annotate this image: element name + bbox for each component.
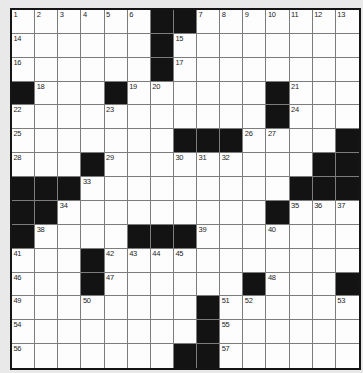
grid-cell[interactable] [105,201,128,225]
grid-cell[interactable] [58,34,81,58]
grid-cell[interactable]: 2 [35,10,58,34]
grid-cell[interactable] [151,344,174,368]
grid-cell[interactable] [313,249,336,273]
grid-cell[interactable]: 57 [220,344,243,368]
grid-cell[interactable]: 19 [128,82,151,106]
grid-cell[interactable] [105,320,128,344]
grid-cell[interactable] [151,201,174,225]
grid-cell[interactable] [243,177,266,201]
grid-cell[interactable] [243,225,266,249]
grid-cell[interactable]: 44 [151,249,174,273]
grid-cell[interactable] [313,58,336,82]
grid-cell[interactable] [35,344,58,368]
grid-cell[interactable]: 38 [35,225,58,249]
grid-cell[interactable] [35,105,58,129]
grid-cell[interactable]: 52 [243,296,266,320]
grid-cell[interactable]: 43 [128,249,151,273]
grid-cell[interactable]: 28 [12,153,35,177]
grid-cell[interactable] [290,273,313,297]
grid-cell[interactable] [290,129,313,153]
grid-cell[interactable] [128,296,151,320]
grid-cell[interactable]: 33 [81,177,104,201]
grid-cell[interactable] [266,58,289,82]
grid-cell[interactable]: 46 [12,273,35,297]
grid-cell[interactable]: 26 [243,129,266,153]
grid-cell[interactable] [58,82,81,106]
grid-cell[interactable] [105,34,128,58]
grid-cell[interactable] [174,105,197,129]
grid-cell[interactable] [336,225,359,249]
grid-cell[interactable] [151,105,174,129]
grid-cell[interactable]: 17 [174,58,197,82]
grid-cell[interactable] [290,153,313,177]
grid-cell[interactable] [220,58,243,82]
grid-cell[interactable] [128,273,151,297]
grid-cell[interactable] [58,249,81,273]
grid-cell[interactable]: 56 [12,344,35,368]
grid-cell[interactable]: 12 [313,10,336,34]
grid-cell[interactable]: 10 [266,10,289,34]
grid-cell[interactable]: 20 [151,82,174,106]
grid-cell[interactable]: 42 [105,249,128,273]
grid-cell[interactable] [290,34,313,58]
grid-cell[interactable]: 27 [266,129,289,153]
grid-cell[interactable] [128,153,151,177]
grid-cell[interactable]: 50 [81,296,104,320]
grid-cell[interactable] [197,177,220,201]
grid-cell[interactable]: 25 [12,129,35,153]
grid-cell[interactable] [174,82,197,106]
grid-cell[interactable]: 1 [12,10,35,34]
grid-cell[interactable] [336,82,359,106]
grid-cell[interactable] [243,105,266,129]
grid-cell[interactable] [243,34,266,58]
grid-cell[interactable] [81,344,104,368]
grid-cell[interactable] [174,320,197,344]
grid-cell[interactable]: 15 [174,34,197,58]
grid-cell[interactable] [81,320,104,344]
grid-cell[interactable]: 7 [197,10,220,34]
grid-cell[interactable] [290,58,313,82]
grid-cell[interactable] [336,249,359,273]
grid-cell[interactable] [128,129,151,153]
grid-cell[interactable]: 39 [197,225,220,249]
grid-cell[interactable] [243,320,266,344]
grid-cell[interactable] [58,153,81,177]
grid-cell[interactable]: 54 [12,320,35,344]
grid-cell[interactable]: 35 [290,201,313,225]
grid-cell[interactable] [58,129,81,153]
grid-cell[interactable] [266,296,289,320]
grid-cell[interactable] [220,82,243,106]
grid-cell[interactable] [128,344,151,368]
grid-cell[interactable] [105,225,128,249]
grid-cell[interactable] [243,249,266,273]
grid-cell[interactable]: 9 [243,10,266,34]
grid-cell[interactable] [58,320,81,344]
grid-cell[interactable] [313,129,336,153]
grid-cell[interactable] [197,82,220,106]
grid-cell[interactable] [105,296,128,320]
grid-cell[interactable]: 41 [12,249,35,273]
grid-cell[interactable] [266,249,289,273]
grid-cell[interactable]: 18 [35,82,58,106]
grid-cell[interactable] [290,344,313,368]
grid-cell[interactable] [35,273,58,297]
grid-cell[interactable] [313,105,336,129]
grid-cell[interactable] [81,201,104,225]
grid-cell[interactable] [81,58,104,82]
grid-cell[interactable] [336,320,359,344]
grid-cell[interactable]: 36 [313,201,336,225]
grid-cell[interactable]: 40 [266,225,289,249]
grid-cell[interactable] [151,177,174,201]
grid-cell[interactable]: 16 [12,58,35,82]
grid-cell[interactable] [313,296,336,320]
grid-cell[interactable] [128,320,151,344]
grid-cell[interactable] [128,58,151,82]
grid-cell[interactable] [81,225,104,249]
grid-cell[interactable]: 30 [174,153,197,177]
grid-cell[interactable] [243,153,266,177]
grid-cell[interactable] [243,201,266,225]
grid-cell[interactable] [105,177,128,201]
grid-cell[interactable] [174,201,197,225]
grid-cell[interactable] [220,201,243,225]
grid-cell[interactable] [151,153,174,177]
